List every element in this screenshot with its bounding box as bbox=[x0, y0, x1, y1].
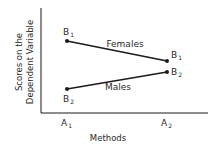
y-axis-title: Scores on the Dependent Variable bbox=[14, 20, 35, 104]
y-axis-title-line2: Dependent Variable bbox=[25, 20, 35, 104]
females-point-a2 bbox=[165, 59, 169, 63]
males-point-label-a2: B2 bbox=[171, 67, 182, 78]
x-axis-title: Methods bbox=[90, 133, 127, 143]
males-series-label: Males bbox=[105, 82, 131, 92]
x-tick-a1: A1 bbox=[61, 118, 72, 129]
males-point-label-a1: B2 bbox=[63, 94, 74, 105]
females-series-label: Females bbox=[106, 39, 144, 49]
females-point-label-a1: B1 bbox=[63, 27, 74, 38]
interaction-line-chart: Scores on the Dependent Variable A1 A2 M… bbox=[0, 0, 214, 148]
y-axis-title-line1: Scores on the bbox=[14, 33, 24, 91]
x-tick-a2: A2 bbox=[161, 118, 172, 129]
females-point-a1 bbox=[65, 39, 69, 43]
males-point-a2 bbox=[165, 70, 169, 74]
females-point-label-a2: B1 bbox=[171, 50, 182, 61]
males-point-a1 bbox=[65, 87, 69, 91]
